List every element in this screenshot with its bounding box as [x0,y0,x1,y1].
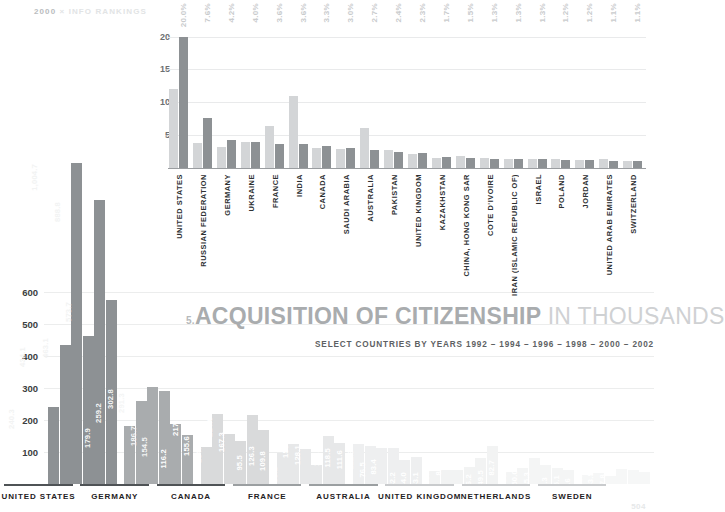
top-chart-category-label: JORDAN [581,174,590,209]
top-chart-y-tick: 20 [142,32,170,42]
main-chart-value-label: 186.7 [129,426,138,446]
main-chart-value-label: 120.1 [445,448,454,468]
page-subtitle: SELECT COUNTRIES BY YEARS 1992 – 1994 – … [186,340,654,349]
top-chart-category-label: UNITED ARAB EMIRATES [605,174,614,275]
main-chart-value-label: 154.5 [140,437,149,457]
main-chart-value-label: 302.8 [106,389,115,409]
top-chart-percent-label: 2.4% [394,3,403,22]
main-chart-group-baseline [233,484,302,486]
main-chart-value-label: 112.3 [346,450,355,470]
main-chart-value-label: 128.1 [293,445,302,465]
main-chart-value-label: 179.9 [83,428,92,448]
main-chart-value-label: 434.1 [18,347,27,367]
page-number: 504 [631,502,646,511]
top-chart-percent-label: 1.7% [442,3,451,22]
main-chart-value-label: 58.1 [270,467,279,483]
masthead-separator: × [60,7,66,16]
main-chart-value-label: 240.3 [7,409,16,429]
top-chart-category-label: COTE D'IVOIRE [486,174,495,236]
main-chart-group-baseline [385,484,454,486]
page-title: 5.ACQUISITION OF CITIZENSHIP IN THOUSAND… [186,303,654,334]
top-chart-y-tick: 15 [142,64,170,74]
top-chart-percent-label: 1.2% [561,3,570,22]
main-chart-value-label: 118.5 [323,448,332,468]
top-chart-percent-label: 1.3% [490,3,499,22]
top-chart-percent-label: 2.3% [418,3,427,22]
top-chart-category-label: FRANCE [271,174,280,208]
top-chart-percent-label: 1.1% [609,3,618,22]
top-chart-category-label: IRAN (ISLAMIC REPUBLIC OF) [510,174,519,296]
masthead: 2000 × INFO RANKINGS [34,7,147,16]
top-chart-category-label: SWITZERLAND [629,174,638,234]
main-chart-value-label: 95.5 [235,455,244,471]
main-chart-value-label: 42.2 [388,472,397,488]
top-chart-category-label: UNITED KINGDOM [414,174,423,247]
main-chart-group-baseline [157,484,226,486]
main-chart-y-tick: 300 [4,383,38,394]
top-chart-category-label: SAUDI ARABIA [342,174,351,234]
top-chart-percent-label: 4.0% [251,3,260,22]
main-chart-bar [616,469,627,484]
main-chart-value-label: 134.6 [194,443,203,463]
main-chart-value-label: 155.6 [182,436,191,456]
main-chart-value-label: 150.0 [281,438,290,458]
top-chart-gridline [168,102,646,103]
top-chart-category-label: UNITED STATES [175,174,184,239]
main-chart-bar [94,200,105,484]
top-chart-category-label: ISRAEL [534,174,543,204]
main-chart-value-label: 291.3 [117,393,126,413]
top-chart-y-tick: 10 [142,97,170,107]
main-chart-value-label: 888.8 [53,202,62,222]
main-chart-y-tick: 600 [4,287,38,298]
top-chart-percent-label: 3.0% [346,3,355,22]
main-chart-group-baseline [309,484,378,486]
top-chart-percent-label: 3.6% [299,3,308,22]
main-chart-group-baseline [538,484,607,486]
top-chart-category-label: AUSTRALIA [366,174,375,222]
main-chart-value-label: 82.2 [434,460,443,476]
main-chart-value-label: 463.1 [41,338,50,358]
top-chart-gridline [168,37,646,38]
top-chart-percent-label: 4.2% [227,3,236,22]
main-chart-bar [159,391,170,484]
title-tail: IN THOUSANDS [548,303,725,329]
top-chart-y-tick: 5 [142,130,170,140]
main-chart-value-label: 111.6 [335,450,344,469]
main-chart-value-label: 126.3 [247,446,256,466]
main-chart-value-label: 76.5 [358,462,367,478]
main-chart-value-label: 116.2 [159,449,168,469]
main-chart-value-label: 59.2 [499,467,508,483]
main-chart-value-label: 83.4 [369,459,378,475]
main-chart-value-label: 214.6 [205,417,214,437]
top-chart-category-label: POLAND [557,174,566,209]
main-chart-group-baseline [80,484,149,486]
top-chart-category-label: PAKISTAN [390,174,399,215]
main-chart-bar [60,345,71,484]
masthead-year: 2000 [34,7,56,16]
top-chart-percent-label: 1.1% [633,3,642,22]
top-chart-gridline [168,69,646,70]
top-chart-percent-label: 1.2% [585,3,594,22]
top-chart-percent-label: 1.5% [466,3,475,22]
main-chart-bar [48,407,59,484]
top-chart-percent-label: 1.3% [514,3,523,22]
top-chart-category-label: INDIA [295,174,304,197]
top-chart-percent-label: 2.7% [370,3,379,22]
main-chart-value-label: 53.9 [422,469,431,485]
top-chart-category-label: KAZAKHSTAN [438,174,447,230]
top-chart-percent-label: 20.0% [179,3,188,27]
top-chart-category-label: UKRAINE [247,174,256,212]
main-chart-value-label: 82.7 [487,460,496,476]
main-chart-value-label: 35.1 [552,475,561,491]
title-main: ACQUISITION OF CITIZENSHIP [195,303,541,329]
main-chart-bar [71,163,82,485]
main-chart-y-tick: 100 [4,447,38,458]
main-chart-value-label: 36.2 [464,474,473,490]
main-chart-value-label: 125.4 [312,446,321,466]
main-chart-bar [311,465,322,484]
masthead-label: INFO RANKINGS [69,7,147,16]
top-chart-gridline [168,135,646,136]
main-chart-value-label: 167.3 [217,432,226,452]
main-chart-bar [639,472,650,484]
main-chart-value-label: 37.8 [598,474,607,490]
